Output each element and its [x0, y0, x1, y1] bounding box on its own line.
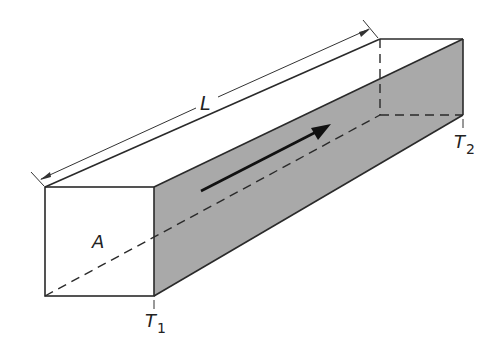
heat-conduction-bar-diagram: L A T1 T2: [0, 0, 498, 356]
temperature-t1-label: T1: [145, 310, 166, 336]
dimension-arrowhead-left-icon: [40, 172, 51, 180]
temperature-t2-label: T2: [454, 131, 475, 157]
length-label: L: [200, 92, 211, 114]
area-label: A: [91, 231, 104, 252]
dimension-arrowhead-right-icon: [359, 29, 370, 37]
